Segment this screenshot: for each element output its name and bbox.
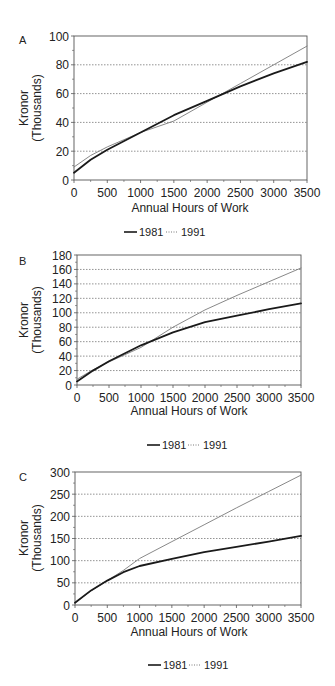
x-tick-label: 1000 xyxy=(126,611,153,625)
y-axis-title-line1: Kronor xyxy=(17,302,31,338)
y-tick-label: 60 xyxy=(56,87,70,101)
legend: 1981 1991 xyxy=(148,659,228,671)
chart-c-svg: C Kronor (Thousands) 0501001502002503000… xyxy=(0,455,335,686)
x-tick-label: 1500 xyxy=(161,186,188,200)
x-tick-label: 1500 xyxy=(160,391,187,405)
x-tick-label: 0 xyxy=(71,186,78,200)
legend-1981-label: 1981 xyxy=(163,659,187,671)
y-tick-label: 80 xyxy=(59,321,73,335)
panel-label: C xyxy=(19,471,27,483)
legend-1991-label: 1991 xyxy=(181,226,205,238)
y-tick-label: 20 xyxy=(59,364,73,378)
x-tick-label: 3000 xyxy=(256,391,283,405)
y-tick-label: 300 xyxy=(50,466,70,480)
legend-1991-label: 1991 xyxy=(203,439,227,451)
y-tick-label: 100 xyxy=(49,30,69,44)
y-tick-label: 60 xyxy=(59,335,73,349)
y-tick-label: 50 xyxy=(57,576,71,590)
x-tick-label: 3500 xyxy=(294,186,321,200)
chart-b-svg: B Kronor (Thousands) 0204060801001201401… xyxy=(0,245,335,455)
x-tick-label: 1500 xyxy=(159,611,186,625)
legend: 1981 1991 xyxy=(147,439,227,451)
x-tick-label: 1000 xyxy=(128,391,155,405)
y-tick-label: 20 xyxy=(56,145,70,159)
chart-panel-c: C Kronor (Thousands) 0501001502002503000… xyxy=(0,455,335,686)
y-axis-title-line2: (Thousands) xyxy=(30,74,44,141)
x-tick-label: 2500 xyxy=(223,611,250,625)
legend-1981-label: 1981 xyxy=(139,226,163,238)
x-tick-label: 0 xyxy=(74,391,81,405)
y-tick-label: 100 xyxy=(52,306,72,320)
y-axis-title: Kronor (Thousands) xyxy=(17,74,44,141)
y-axis-title-line1: Kronor xyxy=(17,520,31,556)
x-tick-label: 500 xyxy=(97,611,117,625)
panel-label: B xyxy=(19,255,26,267)
legend-1991-label: 1991 xyxy=(204,659,228,671)
x-tick-label: 500 xyxy=(97,186,117,200)
plot-frame xyxy=(77,255,301,385)
x-axis-title: Annual Hours of Work xyxy=(131,201,249,215)
y-tick-label: 0 xyxy=(65,379,72,393)
plot-area: 0501001502002503000500100015002000250030… xyxy=(50,466,315,626)
x-tick-label: 3000 xyxy=(255,611,282,625)
x-tick-label: 3000 xyxy=(260,186,287,200)
y-axis-title-line2: (Thousands) xyxy=(30,504,44,571)
chart-panel-a: A Kronor (Thousands) 0204060801000500100… xyxy=(0,0,335,245)
y-tick-label: 100 xyxy=(50,554,70,568)
series-line-1981 xyxy=(74,62,307,173)
y-tick-label: 140 xyxy=(52,277,72,291)
panel-label: A xyxy=(19,34,27,46)
x-tick-label: 2000 xyxy=(191,611,218,625)
y-tick-label: 250 xyxy=(50,488,70,502)
y-axis-title-line2: (Thousands) xyxy=(30,286,44,353)
y-tick-label: 0 xyxy=(63,599,70,613)
x-tick-label: 3500 xyxy=(288,611,315,625)
y-tick-label: 160 xyxy=(52,263,72,277)
plot-area: 0204060801000500100015002000250030003500 xyxy=(49,30,321,201)
y-tick-label: 40 xyxy=(59,350,73,364)
x-tick-label: 2000 xyxy=(192,391,219,405)
y-axis-title-line1: Kronor xyxy=(17,90,31,126)
legend: 1981 1991 xyxy=(124,226,205,238)
y-axis-title: Kronor (Thousands) xyxy=(17,286,44,353)
y-tick-label: 180 xyxy=(52,249,72,263)
y-tick-label: 0 xyxy=(62,174,69,188)
series-line-1991 xyxy=(77,268,301,379)
x-tick-label: 2500 xyxy=(224,391,251,405)
x-axis-title: Annual Hours of Work xyxy=(130,404,248,418)
plot-area: 0204060801001201401601800500100015002000… xyxy=(52,249,315,406)
legend-1981-label: 1981 xyxy=(162,439,186,451)
x-axis-title: Annual Hours of Work xyxy=(130,625,248,639)
y-tick-label: 200 xyxy=(50,510,70,524)
y-tick-label: 80 xyxy=(56,58,70,72)
x-tick-label: 1000 xyxy=(127,186,154,200)
series-line-1981 xyxy=(77,303,301,381)
y-tick-label: 40 xyxy=(56,116,70,130)
x-tick-label: 500 xyxy=(99,391,119,405)
x-tick-label: 0 xyxy=(72,611,79,625)
x-tick-label: 2000 xyxy=(194,186,221,200)
chart-panel-b: B Kronor (Thousands) 0204060801001201401… xyxy=(0,245,335,455)
y-tick-label: 120 xyxy=(52,292,72,306)
series-line-1981 xyxy=(75,536,301,603)
x-tick-label: 2500 xyxy=(227,186,254,200)
y-axis-title: Kronor (Thousands) xyxy=(17,504,44,571)
x-tick-label: 3500 xyxy=(288,391,315,405)
y-tick-label: 150 xyxy=(50,532,70,546)
chart-a-svg: A Kronor (Thousands) 0204060801000500100… xyxy=(0,0,335,245)
